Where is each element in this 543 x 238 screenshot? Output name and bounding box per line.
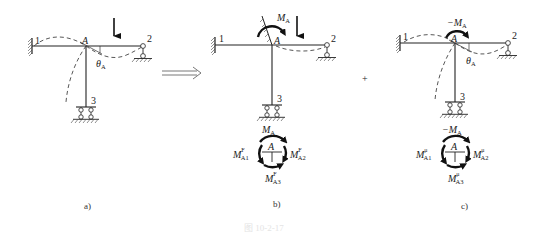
node-label-3: 3 bbox=[277, 93, 282, 104]
node-label-a: A bbox=[81, 35, 89, 46]
moment-bottom-arrow-icon bbox=[447, 165, 464, 167]
node-label-1: 1 bbox=[403, 31, 408, 42]
moment-right-arrow-icon bbox=[284, 146, 286, 160]
deflected-shape-column bbox=[435, 43, 455, 100]
moment-bottom-arrow-icon bbox=[264, 165, 281, 167]
panel-c: 1 A 2 3 −MA θA A −MA MμA1 MμA2 MμA3 c) bbox=[396, 17, 517, 211]
moment-bottom-label: MFA3 bbox=[264, 171, 281, 185]
equivalence-arrow-icon bbox=[162, 67, 201, 79]
deflected-shape-left bbox=[34, 37, 86, 46]
roller-support-3 bbox=[71, 107, 99, 123]
fixed-support-1 bbox=[28, 38, 32, 56]
panel-b: 1 A 2 3 MA A MA MFA1 MFA2 MFA3 b) bbox=[211, 12, 336, 209]
moment-right-label: MFA2 bbox=[289, 147, 306, 161]
joint-free-body-b: A MA MFA1 MFA2 MFA3 bbox=[232, 124, 306, 185]
panel-label-b: b) bbox=[273, 199, 281, 209]
moment-label: −MA bbox=[447, 17, 467, 29]
joint-free-body-c: A −MA MμA1 MμA2 MμA3 bbox=[415, 124, 489, 185]
joint-label-a: A bbox=[450, 141, 458, 152]
roller-support-3 bbox=[440, 102, 468, 118]
node-label-2: 2 bbox=[331, 33, 336, 44]
node-label-3: 3 bbox=[91, 95, 96, 106]
joint-label-a: A bbox=[267, 141, 275, 152]
rotation-label: θA bbox=[96, 58, 106, 70]
node-label-3: 3 bbox=[460, 91, 465, 102]
moment-label: MA bbox=[276, 12, 290, 24]
frame-moment-distribution-figure: 1 A 2 3 θA a) 1 A 2 3 MA bbox=[0, 0, 543, 238]
panel-label-a: a) bbox=[84, 201, 91, 211]
moment-top-label: −MA bbox=[442, 124, 462, 136]
moment-left-arrow-icon bbox=[442, 145, 445, 162]
deflected-shape-column bbox=[66, 46, 86, 102]
moment-bottom-label: MμA3 bbox=[447, 171, 464, 185]
node-label-1: 1 bbox=[35, 35, 40, 46]
fixed-support-1 bbox=[396, 35, 400, 53]
panel-a: 1 A 2 3 θA a) bbox=[28, 18, 152, 211]
node-label-1: 1 bbox=[219, 33, 224, 44]
plus-operator: + bbox=[362, 73, 368, 84]
node-label-2: 2 bbox=[512, 30, 517, 41]
figure-caption: 图 10-2-17 bbox=[244, 223, 284, 233]
roller-support-3 bbox=[257, 105, 285, 121]
node-label-a: A bbox=[273, 35, 281, 46]
rotation-label: θA bbox=[466, 55, 476, 67]
fixed-support-1 bbox=[211, 37, 215, 55]
moment-right-arrow-icon bbox=[467, 146, 469, 160]
moment-left-arrow-icon bbox=[259, 145, 262, 162]
node-label-2: 2 bbox=[147, 33, 152, 44]
moment-right-label: MμA2 bbox=[472, 147, 489, 161]
moment-top-label: MA bbox=[261, 124, 275, 136]
deflected-shape-right bbox=[276, 46, 325, 51]
moment-left-label: MμA1 bbox=[415, 147, 432, 161]
deflected-shape-right bbox=[86, 46, 142, 58]
node-label-a: A bbox=[450, 33, 458, 44]
panel-label-c: c) bbox=[461, 201, 468, 211]
deflected-shape-right bbox=[455, 43, 507, 54]
moment-left-label: MFA1 bbox=[232, 147, 249, 161]
